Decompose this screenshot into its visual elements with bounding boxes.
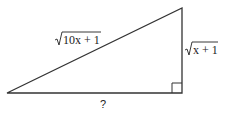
vertical-leg-expr: x + 1 — [193, 43, 218, 57]
hypotenuse-label: 10x + 1 — [55, 32, 101, 47]
vertical-leg-label: x + 1 — [185, 42, 218, 57]
triangle-diagram: 10x + 1 x + 1 ? — [0, 0, 227, 114]
horizontal-leg-label: ? — [100, 98, 106, 110]
hypotenuse-expr: 10x + 1 — [63, 33, 100, 47]
right-triangle — [7, 8, 182, 93]
right-angle-marker — [172, 83, 182, 93]
